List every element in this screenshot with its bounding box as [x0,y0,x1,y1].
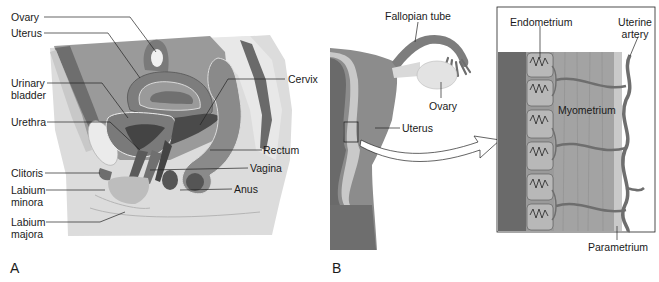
label-urethra: Urethra [11,116,46,128]
panel-letter-b: B [332,260,341,276]
label-labium-minora-line2: minora [11,196,43,208]
anatomy-illustration [0,0,659,282]
panel-letter-a: A [10,260,19,276]
label-urinary-bladder-line1: Urinary [11,77,45,89]
label-cervix: Cervix [288,73,318,85]
panel-a-illustration [50,35,292,236]
label-labium-majora-line2: majora [11,228,43,240]
label-myometrium: Myometrium [558,104,616,116]
label-uterine-artery-line2: artery [614,28,656,40]
label-ovary-b: Ovary [429,100,457,112]
label-uterine-artery-line1: Uterine [614,16,656,28]
label-urinary-bladder-line2: bladder [11,89,46,101]
label-endometrium: Endometrium [510,16,572,28]
label-fallopian-tube: Fallopian tube [385,10,451,22]
label-vagina: Vagina [250,162,282,174]
panel-b-illustration [330,7,655,250]
label-rectum: Rectum [263,144,299,156]
label-uterus-a: Uterus [11,27,42,39]
label-labium-minora-line1: Labium [11,184,45,196]
label-parametrium: Parametrium [588,241,648,253]
label-clitoris: Clitoris [11,167,43,179]
label-anus: Anus [234,183,258,195]
label-labium-majora-line1: Labium [11,216,45,228]
label-uterus-b: Uterus [402,122,433,134]
label-ovary-a: Ovary [11,11,39,23]
